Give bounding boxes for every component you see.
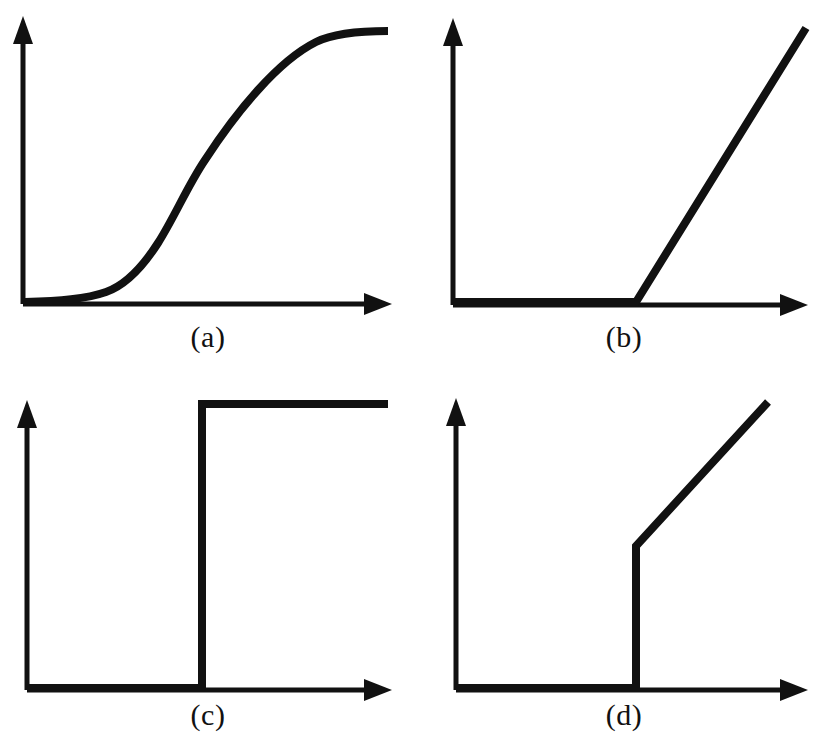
panel-c-plot — [0, 375, 416, 750]
rectified-linear-curve — [454, 28, 806, 302]
sigmoid-curve — [25, 31, 388, 302]
panel-c-hard-limit-step: (c) — [0, 375, 416, 750]
figure-activation-functions: (a) (b) (c) — [0, 0, 832, 750]
y-axis-arrow-icon — [446, 398, 466, 426]
panel-a-plot — [0, 0, 416, 375]
y-axis-arrow-icon — [443, 18, 463, 46]
panel-d-step-plus-ramp: (d) — [416, 375, 832, 750]
panel-label-c: (c) — [0, 698, 416, 732]
x-axis-arrow-icon — [780, 294, 808, 316]
panel-label-a: (a) — [0, 320, 416, 354]
y-axis-arrow-icon — [13, 16, 33, 44]
y-axis-arrow-icon — [17, 400, 37, 428]
x-axis-arrow-icon — [364, 293, 392, 315]
panel-d-plot — [416, 375, 832, 750]
panel-b-plot — [416, 0, 832, 375]
panel-a-sigmoid: (a) — [0, 0, 416, 375]
panel-label-b: (b) — [416, 320, 832, 354]
hard-limit-step-curve — [28, 404, 388, 688]
step-plus-ramp-curve — [457, 402, 768, 688]
panel-b-rectified-linear: (b) — [416, 0, 832, 375]
panel-label-d: (d) — [416, 698, 832, 732]
